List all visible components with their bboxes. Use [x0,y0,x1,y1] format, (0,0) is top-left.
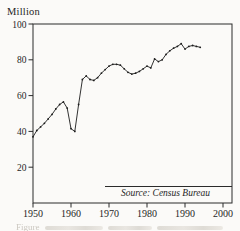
data-point-marker [120,64,122,66]
data-point-marker [177,46,179,48]
data-point-marker [146,65,148,67]
data-point-marker [184,48,186,50]
data-point-marker [59,104,61,106]
data-point-marker [104,69,106,71]
census-line-chart-figure: 20406080100195019601970198019902000 Mill… [0,0,240,231]
data-point-marker [173,47,175,49]
data-point-marker [150,67,152,69]
data-point-marker [188,46,190,48]
data-point-marker [36,130,38,132]
data-point-marker [154,58,156,60]
data-point-marker [196,46,198,48]
data-point-marker [108,65,110,67]
plot-frame [33,24,232,203]
caption-smudge [45,226,103,230]
y-axis-unit-label: Million [7,6,40,17]
data-point-marker [78,104,80,106]
data-point-marker [47,118,49,120]
data-point-marker [127,71,129,73]
data-point-marker [199,46,201,48]
data-point-marker [32,136,34,138]
data-point-marker [165,54,167,56]
y-axis-tick-label: 40 [17,127,27,137]
x-axis-tick-label: 1980 [137,208,157,219]
x-axis-tick-label: 1960 [61,208,81,219]
data-point-marker [112,63,114,65]
data-point-marker [131,73,133,75]
caption-ghost: Figure [16,223,228,231]
data-point-marker [66,107,68,109]
data-point-marker [101,72,103,74]
x-axis-tick-label: 1990 [175,208,195,219]
caption-fragment: Figure [16,223,40,231]
data-point-marker [89,79,91,81]
x-axis-tick-label: 1970 [99,208,119,219]
data-series-line [33,44,200,137]
data-point-marker [192,45,194,47]
data-point-marker [82,79,84,81]
caption-smudge [157,226,223,230]
data-point-marker [180,43,182,45]
y-axis-tick-label: 20 [17,163,27,173]
data-point-marker [44,122,46,124]
data-point-marker [97,77,99,79]
data-point-marker [116,63,118,65]
data-point-marker [63,101,65,103]
data-point-marker [93,80,95,82]
y-axis-tick-label: 60 [17,91,27,101]
data-point-marker [85,75,87,77]
data-point-marker [142,68,144,70]
data-point-marker [40,126,42,128]
data-point-marker [161,59,163,61]
data-point-marker [135,72,137,74]
source-note: Source: Census Bureau [100,188,231,199]
data-point-marker [70,128,72,130]
data-point-marker [74,131,76,133]
data-point-marker [51,114,53,116]
y-axis-tick-label: 100 [12,20,27,30]
y-axis-tick-label: 80 [17,55,27,65]
data-point-marker [55,108,57,110]
data-point-marker [158,61,160,63]
data-point-marker [139,71,141,73]
data-point-marker [169,50,171,52]
caption-smudge [108,226,152,230]
x-axis-tick-label: 1950 [23,208,43,219]
data-point-marker [123,68,125,70]
x-axis-tick-label: 2000 [213,208,233,219]
